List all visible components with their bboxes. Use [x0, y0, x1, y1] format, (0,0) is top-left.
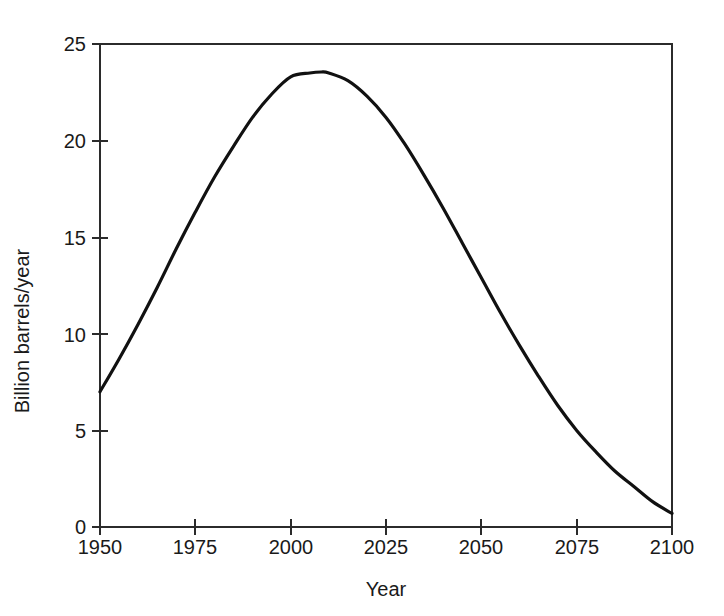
data-series-line: [100, 72, 672, 514]
chart-figure: Billion barrels/year 25 20 15 10 5 0 195…: [0, 0, 724, 616]
plot-area: [0, 0, 724, 616]
